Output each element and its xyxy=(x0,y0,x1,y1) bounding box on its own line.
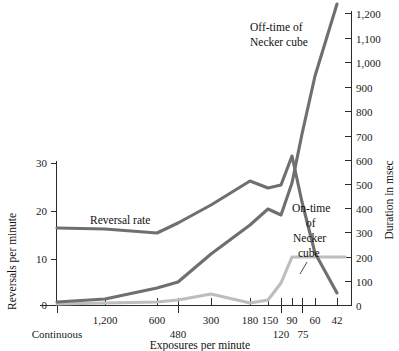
right-axis: 1,200 1,100 1,000 900 800 700 600 500 40… xyxy=(345,8,381,312)
label-off-time-line2: Necker cube xyxy=(250,36,308,48)
y-right-tick-600: 600 xyxy=(356,155,373,167)
x-tick-150: 150 xyxy=(262,314,279,326)
x-tick-120: 120 xyxy=(273,328,290,340)
y-right-tick-1000: 1,000 xyxy=(356,57,381,69)
x-tick-90: 90 xyxy=(287,314,299,326)
y-left-tick-20: 20 xyxy=(36,205,48,217)
x-tick-continuous: Continuous xyxy=(32,328,83,340)
label-on-time-line1: On-time xyxy=(292,202,330,214)
y-right-tick-400: 400 xyxy=(356,203,373,215)
y-right-tick-1200: 1,200 xyxy=(356,8,381,20)
y-right-tick-500: 500 xyxy=(356,179,373,191)
x-tick-75: 75 xyxy=(298,328,310,340)
y-left-tick-30: 30 xyxy=(36,157,48,169)
label-on-time-line4: cube xyxy=(298,247,320,259)
x-tick-300: 300 xyxy=(203,314,220,326)
x-tick-60: 60 xyxy=(310,314,322,326)
x-tick-1200: 1,200 xyxy=(93,314,118,326)
y-left-axis-title: Reversals per minute xyxy=(6,213,19,310)
y-right-tick-200: 200 xyxy=(356,252,373,264)
y-right-tick-900: 900 xyxy=(356,82,373,94)
x-tick-42: 42 xyxy=(332,314,343,326)
label-on-time-line2: of xyxy=(306,217,316,229)
x-tick-180: 180 xyxy=(242,314,259,326)
label-off-time-line1: Off-time of xyxy=(250,21,303,33)
y-right-tick-100: 100 xyxy=(356,276,373,288)
left-axis: 30 20 10 0 xyxy=(36,157,57,311)
necker-cube-chart: 30 20 10 0 Reversals per minute 1,200 1,… xyxy=(0,0,399,351)
y-right-tick-300: 300 xyxy=(356,227,373,239)
label-on-time-line3: Necker xyxy=(293,232,326,244)
chart-plot-area: 30 20 10 0 Reversals per minute 1,200 1,… xyxy=(0,0,399,351)
y-right-tick-1100: 1,100 xyxy=(356,33,381,45)
y-right-tick-700: 700 xyxy=(356,131,373,143)
x-tick-600: 600 xyxy=(149,314,166,326)
y-right-tick-0: 0 xyxy=(356,300,362,312)
y-right-axis-title: Duration in msec xyxy=(383,160,395,239)
y-right-tick-800: 800 xyxy=(356,106,373,118)
y-left-tick-10: 10 xyxy=(36,253,48,265)
on-time-leader-line xyxy=(300,262,307,274)
label-reversal-rate: Reversal rate xyxy=(90,214,150,226)
x-axis-title: Exposures per minute xyxy=(150,339,250,351)
